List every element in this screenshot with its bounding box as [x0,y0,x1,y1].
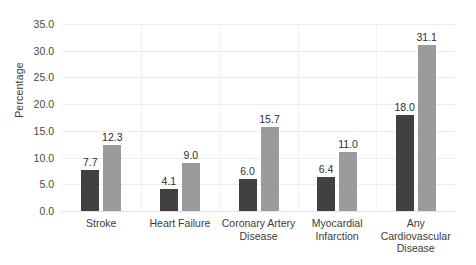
bar-group: 7.712.3 [81,24,121,211]
bar-group: 4.19.0 [160,24,200,211]
bar[interactable] [418,45,436,211]
y-axis-tick-label: 25.0 [0,71,54,83]
bar-value-label: 31.1 [407,31,447,43]
gridline [62,211,455,212]
plot-area: 7.712.34.19.06.015.76.411.018.031.1 [62,24,455,211]
bar[interactable] [239,179,257,211]
bar[interactable] [339,152,357,211]
group-separator [141,24,142,211]
y-axis-tick-label: 15.0 [0,125,54,137]
bar[interactable] [81,170,99,211]
y-axis-tick-label: 5.0 [0,178,54,190]
y-axis-tick-label: 20.0 [0,98,54,110]
bar[interactable] [396,115,414,211]
x-axis-category-label-line: Cardiovascular [360,230,472,243]
bar-chart: Percentage 7.712.34.19.06.015.76.411.018… [0,0,476,265]
y-axis-tick-label: 35.0 [0,18,54,30]
bar-value-label: 12.3 [92,131,132,143]
bar-value-label: 9.0 [171,149,211,161]
y-axis-tick-label: 0.0 [0,205,54,217]
group-separator [219,24,220,211]
bar-group: 6.015.7 [239,24,279,211]
y-axis-tick-label: 30.0 [0,45,54,57]
bar-group: 18.031.1 [396,24,436,211]
x-axis-category-label: AnyCardiovascularDisease [360,217,472,255]
bar[interactable] [317,177,335,211]
group-separator [376,24,377,211]
x-axis-category-label-line: Any [360,217,472,230]
y-axis-tick-label: 10.0 [0,152,54,164]
bar-value-label: 11.0 [328,138,368,150]
bar[interactable] [103,145,121,211]
x-axis-category-label-line: Disease [360,242,472,255]
bar[interactable] [160,189,178,211]
bar[interactable] [261,127,279,211]
bar-value-label: 15.7 [250,113,290,125]
bar[interactable] [182,163,200,211]
bar-group: 6.411.0 [317,24,357,211]
group-separator [298,24,299,211]
